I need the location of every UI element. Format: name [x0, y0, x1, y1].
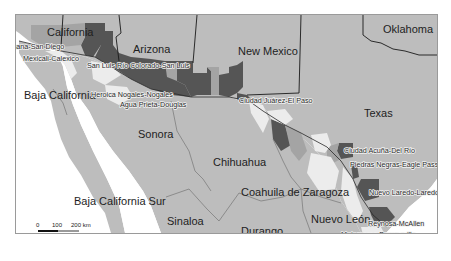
city-label-juarez-el-paso: Ciudad Juárez-El Paso: [239, 96, 313, 105]
map-canvas[interactable]: California Arizona New Mexico Oklahoma T…: [16, 15, 437, 233]
state-label-baja-california-sur: Baja California Sur: [74, 195, 166, 207]
city-label-mexicali-calexico: Mexicali-Calexico: [23, 54, 79, 63]
city-label-nuevo-laredo-laredo: Nuevo Laredo-Laredo: [369, 188, 437, 197]
city-label-acuna-del-rio: Ciudad Acuña-Del Río: [344, 146, 415, 155]
state-label-sonora: Sonora: [138, 128, 174, 140]
state-label-sinaloa: Sinaloa: [167, 215, 205, 227]
city-label-reynosa-mcallen: Reynosa-McAllen: [368, 219, 424, 228]
state-label-nuevo-leon: Nuevo León: [311, 213, 370, 225]
state-label-durango: Durango: [241, 225, 283, 233]
city-label-tijuana-san-diego: Tijuana-San Diego: [16, 42, 64, 51]
city-label-piedras-negras-eagle-pass: Piedras Negras-Eagle Pass: [350, 160, 437, 169]
scale-tick-200: 200 km: [71, 222, 91, 228]
city-label-matamoros-brownsville: Matamoros-Brownsville: [341, 230, 416, 233]
map-frame: California Arizona New Mexico Oklahoma T…: [15, 14, 438, 234]
city-label-agua-prieta-douglas: Agua Prieta-Douglas: [120, 100, 187, 109]
state-label-oklahoma: Oklahoma: [383, 23, 434, 35]
state-label-coahuila: Coahuila de Zaragoza: [241, 186, 350, 198]
state-label-california: California: [47, 26, 94, 38]
city-label-san-luis: San Luis Río Colorado-San Luis: [87, 61, 190, 70]
scale-tick-100: 100: [52, 222, 63, 228]
state-label-texas: Texas: [364, 107, 393, 119]
state-label-new-mexico: New Mexico: [238, 45, 298, 57]
state-label-chihuahua: Chihuahua: [213, 156, 267, 168]
state-label-arizona: Arizona: [133, 43, 171, 55]
city-label-nogales: Heroica Nogales-Nogales: [91, 90, 173, 99]
state-label-baja-california: Baja California: [24, 89, 96, 101]
